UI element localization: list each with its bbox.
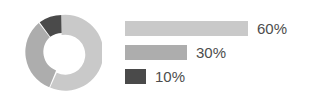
legend-swatch-bar-10: [125, 69, 146, 84]
legend-swatch-bar-60: [125, 21, 248, 36]
legend-label-10: 10%: [155, 69, 185, 84]
donut-chart: [22, 13, 102, 93]
legend-item-30[interactable]: 30%: [125, 43, 226, 61]
legend-item-10[interactable]: 10%: [125, 67, 185, 85]
legend-label-30: 30%: [196, 45, 226, 60]
legend-label-60: 60%: [257, 21, 287, 36]
legend: 60% 30% 10%: [125, 17, 305, 92]
legend-swatch-bar-30: [125, 45, 187, 60]
donut-chart-figure: 60% 30% 10%: [0, 0, 310, 105]
legend-item-60[interactable]: 60%: [125, 19, 287, 37]
